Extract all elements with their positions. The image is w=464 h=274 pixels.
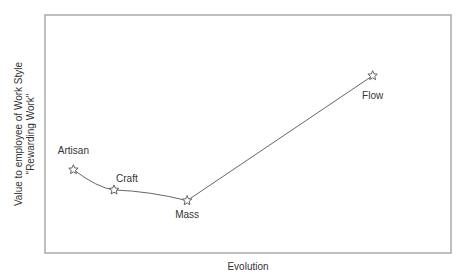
point-label-craft: Craft [116, 173, 138, 184]
x-axis-label: Evolution [227, 261, 268, 272]
star-marker-icon [109, 185, 119, 194]
point-label-artisan: Artisan [58, 145, 89, 156]
star-marker-icon [182, 196, 192, 205]
plot-frame [45, 15, 451, 253]
point-label-flow: Flow [362, 90, 384, 101]
chart: ArtisanCraftMassFlow Evolution Value to … [0, 0, 464, 274]
y-axis-label-line2: "Rewarding Work" [25, 93, 36, 174]
point-label-mass: Mass [175, 209, 199, 220]
series-line: ArtisanCraftMassFlow [58, 71, 384, 220]
y-axis-label-line1: Value to employee of Work Style [13, 61, 24, 206]
